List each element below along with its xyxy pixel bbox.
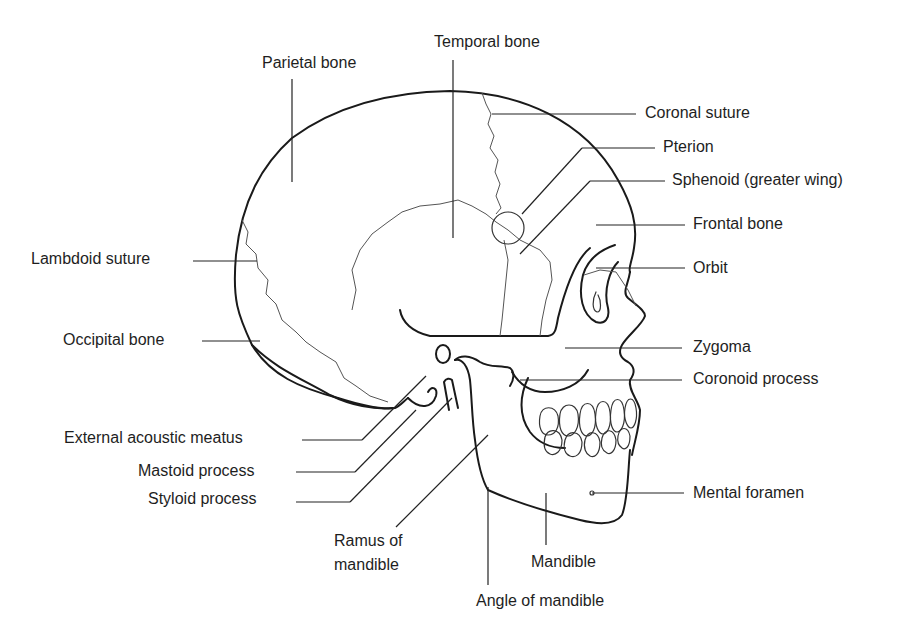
label-frontal-bone: Frontal bone [693,215,783,233]
label-coronal-suture: Coronal suture [645,104,750,122]
skull-lateral-diagram: Parietal bone Temporal bone Coronal sutu… [0,0,900,641]
zygomatic-arch [400,248,590,336]
styloid-outline [444,379,458,410]
label-pterion: Pterion [663,138,714,156]
label-zygoma: Zygoma [693,338,751,356]
label-angle-of-mandible: Angle of mandible [476,592,604,610]
label-coronoid-process: Coronoid process [693,370,818,388]
label-external-acoustic-meatus: External acoustic meatus [64,429,243,447]
condyle-outline [455,356,513,386]
label-mandible: Mandible [531,553,596,571]
label-parietal-bone: Parietal bone [262,54,356,72]
lambdoid-suture-line [242,220,320,352]
skull-drawing [0,0,900,641]
label-sphenoid: Sphenoid (greater wing) [672,171,843,189]
label-occipital-bone: Occipital bone [63,331,164,349]
pterion-circle [492,212,524,244]
label-temporal-bone: Temporal bone [434,33,540,51]
label-ramus-of-mandible-line1: Ramus of [334,532,402,550]
occipital-lower-outline [252,345,393,408]
coronal-suture-line [482,93,501,214]
cranium-outline [235,91,635,408]
meatus-ellipse [436,345,450,363]
label-styloid-process: Styloid process [148,490,257,508]
label-lambdoid-suture: Lambdoid suture [31,250,150,268]
mastoid-outline [408,388,436,406]
label-ramus-of-mandible-line2: mandible [334,556,399,574]
orbit-inner [593,292,600,312]
leader-lines [193,60,685,585]
label-mastoid-process: Mastoid process [138,462,255,480]
squamosal-suture-line [352,200,520,310]
label-orbit: Orbit [693,259,728,277]
label-mental-foramen: Mental foramen [693,484,804,502]
sphenofrontal-suture [520,240,552,336]
sphenoid-suture [500,240,508,336]
